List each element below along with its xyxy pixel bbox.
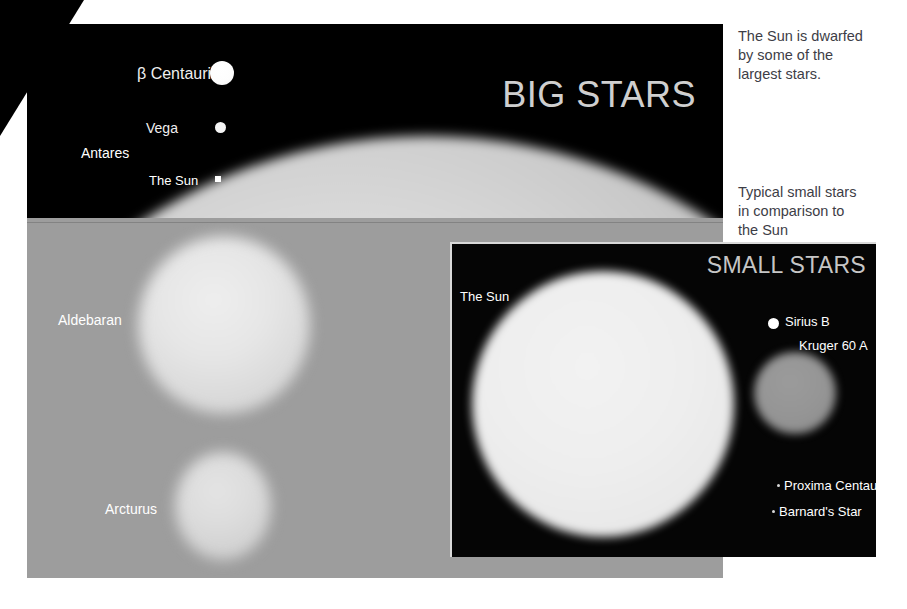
barnards-star-sphere	[772, 510, 775, 513]
big-stars-title: BIG STARS	[502, 74, 696, 116]
beta-centauri-sphere	[210, 61, 234, 85]
label-arcturus: Arcturus	[105, 501, 157, 517]
caption-big-line-2: by some of the	[738, 46, 888, 65]
label-sirius-b: Sirius B	[785, 314, 830, 329]
caption-small-line-1: Typical small stars	[738, 183, 888, 202]
caption-big-stars: The Sun is dwarfed by some of the larges…	[738, 27, 888, 84]
sirius-b-sphere	[768, 318, 779, 329]
small-stars-panel: SMALL STARS The Sun Sirius B Kruger 60 A…	[450, 242, 876, 557]
caption-big-line-1: The Sun is dwarfed	[738, 27, 888, 46]
caption-small-stars: Typical small stars in comparison to the…	[738, 183, 888, 240]
aldebaran-sphere	[138, 236, 310, 414]
proxima-centauri-sphere	[777, 484, 780, 487]
kruger-60-a-sphere	[754, 352, 836, 434]
infographic-stage: BIG STARS β Centauri Vega Antares The Su…	[0, 0, 907, 609]
label-the-sun-small-panel: The Sun	[460, 289, 509, 304]
label-proxima-centauri: Proxima Centauri	[784, 478, 876, 493]
vega-sphere	[215, 122, 226, 133]
label-the-sun-big-panel: The Sun	[149, 173, 198, 188]
sun-sphere-big-panel	[215, 176, 221, 182]
caption-big-line-3: largest stars.	[738, 65, 888, 84]
small-stars-title: SMALL STARS	[707, 252, 866, 279]
label-antares: Antares	[81, 145, 129, 161]
label-aldebaran: Aldebaran	[58, 312, 122, 328]
caption-small-line-2: in comparison to	[738, 202, 888, 221]
antares-horizon-line	[27, 222, 723, 223]
label-beta-centauri: β Centauri	[137, 65, 211, 83]
sun-sphere-small-panel	[472, 271, 734, 537]
arcturus-sphere	[175, 452, 271, 560]
label-barnards-star: Barnard's Star	[779, 504, 862, 519]
label-vega: Vega	[146, 120, 178, 136]
label-kruger-60-a: Kruger 60 A	[799, 338, 868, 353]
caption-small-line-3: the Sun	[738, 221, 888, 240]
